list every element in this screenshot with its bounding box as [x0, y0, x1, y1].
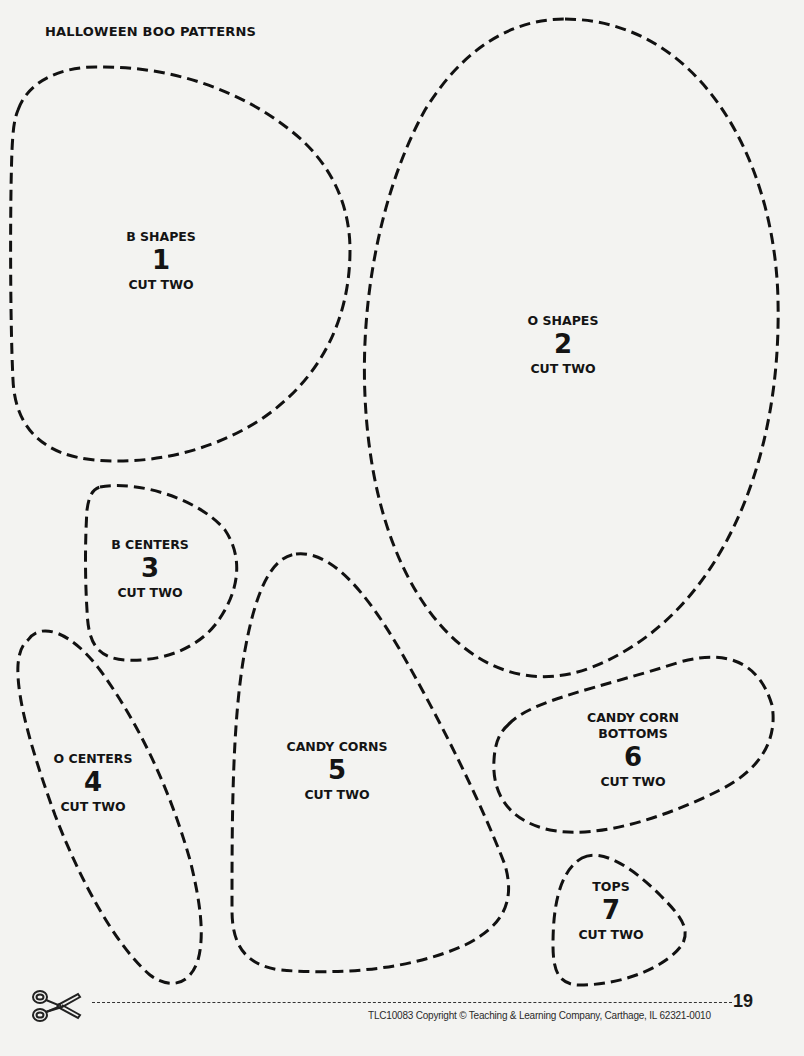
pattern-label-b-centers: B CENTERS 3 CUT TWO — [111, 537, 189, 600]
copyright-text: TLC10083 Copyright © Teaching & Learning… — [368, 1010, 711, 1021]
pattern-name-line2: BOTTOMS — [587, 726, 679, 742]
pattern-name: CANDY CORNS — [286, 739, 387, 755]
pattern-number: 6 — [587, 744, 679, 770]
pattern-instruction: CUT TWO — [587, 776, 679, 789]
pattern-label-o-centers: O CENTERS 4 CUT TWO — [54, 751, 133, 814]
pattern-number: 1 — [126, 247, 196, 273]
pattern-label-b-shapes: B SHAPES 1 CUT TWO — [126, 229, 196, 292]
pattern-number: 7 — [578, 897, 643, 923]
scissors-icon — [30, 988, 92, 1024]
pattern-number: 2 — [528, 331, 599, 357]
pattern-number: 5 — [286, 757, 387, 783]
pattern-instruction: CUT TWO — [286, 789, 387, 802]
pattern-name: B SHAPES — [126, 229, 196, 245]
pattern-name: O CENTERS — [54, 751, 133, 767]
pattern-number: 4 — [54, 769, 133, 795]
pattern-instruction: CUT TWO — [54, 801, 133, 814]
cut-line — [92, 1002, 732, 1003]
pattern-outlines — [0, 0, 804, 1056]
pattern-label-candy-corn-bottoms: CANDY CORN BOTTOMS 6 CUT TWO — [587, 710, 679, 789]
pattern-instruction: CUT TWO — [528, 363, 599, 376]
pattern-label-tops: TOPS 7 CUT TWO — [578, 879, 643, 942]
pattern-label-o-shapes: O SHAPES 2 CUT TWO — [528, 313, 599, 376]
pattern-name: TOPS — [578, 879, 643, 895]
page-number: 19 — [733, 991, 753, 1012]
pattern-instruction: CUT TWO — [578, 929, 643, 942]
pattern-name-line1: CANDY CORN — [587, 710, 679, 726]
pattern-name: O SHAPES — [528, 313, 599, 329]
pattern-name: B CENTERS — [111, 537, 189, 553]
pattern-number: 3 — [111, 555, 189, 581]
pattern-instruction: CUT TWO — [126, 279, 196, 292]
pattern-instruction: CUT TWO — [111, 587, 189, 600]
pattern-label-candy-corns: CANDY CORNS 5 CUT TWO — [286, 739, 387, 802]
